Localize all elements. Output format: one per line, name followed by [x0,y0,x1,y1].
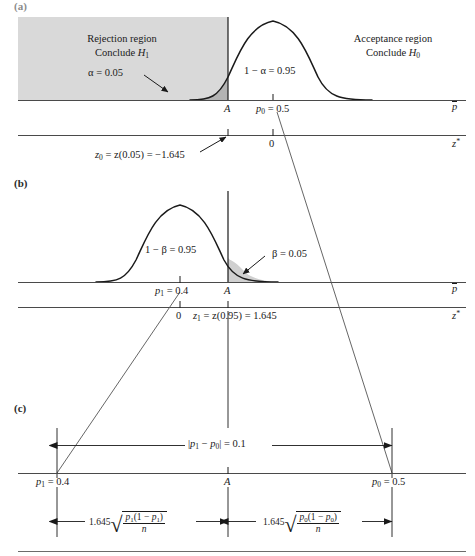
right-se-radical: √p0(1 − p0)n [284,511,341,536]
statistics-figure: (a) Rejection region Conclude H1 Accepta… [0,0,475,556]
axis-label-pbar-b: p [452,283,457,295]
z0-formula: z0 = z(0.05) = −1.645 [95,150,185,162]
acceptance-region-line1: Acceptance region [354,33,432,44]
rejection-region-line2: Conclude H1 [95,47,149,58]
acceptance-region-label: Acceptance region Conclude H0 [318,32,468,61]
power-label-b: 1 − β = 0.95 [145,245,196,256]
zaxis-zero-a: 0 [269,139,274,150]
rejection-region-line1: Rejection region [87,33,157,44]
beta-tail-label: β = 0.05 [272,249,307,260]
acceptance-region-line2: Conclude H0 [366,47,420,58]
panel-c-tag: (c) [14,403,26,414]
right-se-formula: 1.645√p0(1 − p0)n [263,511,341,536]
beta-leader-line [243,256,265,274]
z0-leader-line [200,137,226,152]
panel-a-tag: (a) [14,1,27,12]
z1-formula: z1 = z(0.95) = 1.645 [193,311,277,323]
span-label-c: |p1 − p0| = 0.1 [188,439,246,451]
right-se-coefficient: 1.645 [263,517,284,527]
power-label-a: 1 − α = 0.95 [244,66,295,77]
axis-label-zstar-a: z* [452,138,460,150]
left-se-coefficient: 1.645 [89,517,110,527]
left-se-radical: √p1(1 − p1)n [110,511,167,536]
panel-b-tag: (b) [14,178,27,189]
figure-vector-layer [0,0,475,556]
zaxis-zero-b: 0 [176,311,181,322]
tick-label-p1-c: p1 = 0.4 [36,477,69,489]
beta-tail-shading [228,258,275,282]
projection-line-p0 [277,112,392,473]
tick-label-p1-b: p1 = 0.4 [155,286,188,298]
tick-label-A-a: A [224,104,230,115]
axis-label-zstar-b: z* [452,310,460,322]
tick-label-p0-a: p0 = 0.5 [256,104,289,116]
tick-label-A-b: A [224,286,230,297]
left-se-formula: 1.645√p1(1 − p1)n [89,511,167,536]
tick-label-A-c: A [224,477,230,488]
rejection-region-label: Rejection region Conclude H1 [47,32,197,61]
alpha-tail-label: α = 0.05 [88,68,123,79]
axis-label-pbar-a: p [452,101,457,113]
tick-label-p0-c: p0 = 0.5 [372,477,405,489]
